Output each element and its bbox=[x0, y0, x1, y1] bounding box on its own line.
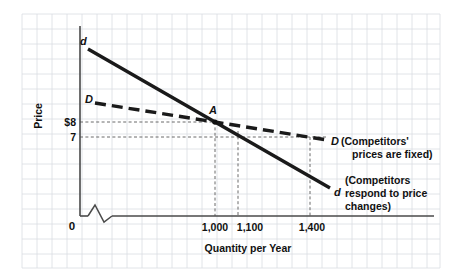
annotation-d-line-2: respond to price bbox=[345, 187, 427, 199]
y-tick-label-7: 7 bbox=[70, 131, 76, 143]
x-tick-label-1100: 1,100 bbox=[237, 221, 263, 233]
x-tick-label-1400: 1,400 bbox=[299, 221, 325, 233]
curve-label-D-right: D bbox=[331, 135, 339, 147]
annotation-D-line-1: (Competitors' bbox=[341, 135, 409, 147]
origin-label: 0 bbox=[69, 220, 75, 232]
point-a-dot bbox=[212, 119, 217, 124]
y-tick-label-8: $8 bbox=[64, 116, 76, 128]
y-axis-title: Price bbox=[32, 103, 44, 129]
x-tick-label-1000: 1,000 bbox=[202, 221, 228, 233]
annotation-D-line-2: prices are fixed) bbox=[352, 148, 433, 160]
annotation-d-line-1: (Competitors bbox=[345, 174, 410, 186]
annotation-d-line-3: changes) bbox=[345, 200, 391, 212]
point-label-a: A bbox=[208, 104, 217, 116]
curve-label-d-left: d bbox=[80, 35, 87, 47]
x-axis-title: Quantity per Year bbox=[205, 242, 292, 254]
curve-label-d-right: d bbox=[334, 186, 341, 198]
figure-container: $8 7 0 1,000 1,100 1,400 Price Quantity … bbox=[0, 0, 455, 277]
kinked-demand-curve-chart: $8 7 0 1,000 1,100 1,400 Price Quantity … bbox=[0, 0, 455, 277]
curve-label-D-left: D bbox=[85, 93, 93, 105]
